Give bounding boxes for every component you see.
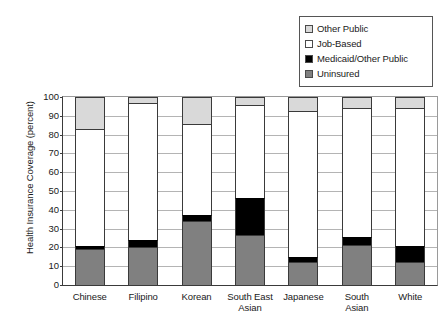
bar-group: Japanese [277,97,330,285]
stacked-bar [235,97,265,285]
bar-segment-other-public [75,97,105,129]
bar-segment-medicaid-other-public [182,215,212,222]
stacked-bar [342,97,372,285]
y-tick-label: 30 [48,224,59,234]
x-tick-label: SouthAsian [345,291,369,313]
y-tick-label: 90 [48,111,59,121]
legend-item-medicaid-other-public: Medicaid/Other Public [305,51,427,66]
bar-segment-medicaid-other-public [342,237,372,245]
bar-segment-uninsured [342,245,372,285]
legend-label-medicaid-other-public: Medicaid/Other Public [317,54,408,64]
y-tick-label: 0 [54,280,59,290]
stacked-bar [288,97,318,285]
bar-segment-uninsured [182,221,212,285]
plot-area: 1009080706050403020100ChineseFilipinoKor… [62,96,438,286]
bar-group: Filipino [116,97,169,285]
x-tick-label: Japanese [283,291,323,302]
bar-group: Chinese [63,97,116,285]
bar-segment-job-based [288,111,318,257]
bar-segment-other-public [288,97,318,111]
bar-segment-uninsured [288,262,318,286]
bar-segment-medicaid-other-public [288,257,318,262]
bar-segment-medicaid-other-public [395,246,425,262]
bar-segment-job-based [342,108,372,237]
bar-segment-uninsured [395,262,425,286]
legend-swatch-job-based [305,40,313,48]
y-tick-label: 10 [48,261,59,271]
bar-group: South EastAsian [223,97,276,285]
bar-segment-uninsured [75,249,105,285]
chart-legend: Other Public Job-Based Medicaid/Other Pu… [299,16,433,87]
x-tick-label: White [398,291,422,302]
bar-segment-other-public [235,97,265,105]
legend-swatch-medicaid-other-public [305,55,313,63]
stacked-bar [182,97,212,285]
x-tick-label: Filipino [128,291,157,302]
bar-group: Korean [170,97,223,285]
bar-segment-job-based [128,103,158,240]
legend-item-job-based: Job-Based [305,36,427,51]
bar-segment-job-based [395,108,425,245]
x-tick-label: South EastAsian [227,291,272,313]
y-tick-label: 60 [48,167,59,177]
bar-group: SouthAsian [330,97,383,285]
y-tick-label: 50 [48,186,59,196]
y-tick-label: 20 [48,242,59,252]
bar-segment-other-public [128,97,158,103]
legend-item-other-public: Other Public [305,21,427,36]
y-tick-label: 70 [48,148,59,158]
legend-label-job-based: Job-Based [317,39,362,49]
x-tick-label: Chinese [73,291,107,302]
bar-segment-job-based [182,124,212,214]
bar-segment-job-based [235,105,265,198]
bar-segment-other-public [182,97,212,124]
bar-segment-other-public [342,97,372,108]
legend-label-uninsured: Uninsured [317,69,359,79]
y-tick-label: 100 [43,92,59,102]
bar-segment-medicaid-other-public [235,198,265,236]
bar-segment-medicaid-other-public [128,240,158,248]
bar-group: White [384,97,437,285]
stacked-bar [395,97,425,285]
y-axis-title: Health Insurance Coverage (percent) [24,78,35,278]
legend-label-other-public: Other Public [317,24,368,34]
bar-segment-uninsured [235,235,265,285]
bar-segment-uninsured [128,247,158,285]
stacked-bar [128,97,158,285]
y-tick-label: 40 [48,205,59,215]
bar-segment-job-based [75,129,105,246]
x-tick-label: Korean [182,291,212,302]
chart-figure: Other Public Job-Based Medicaid/Other Pu… [0,0,444,333]
legend-swatch-other-public [305,25,313,33]
stacked-bar [75,97,105,285]
y-tick-label: 80 [48,130,59,140]
y-tick-mark [60,285,63,286]
bar-segment-medicaid-other-public [75,246,105,250]
legend-swatch-uninsured [305,70,313,78]
bar-segment-other-public [395,97,425,108]
legend-item-uninsured: Uninsured [305,66,427,81]
